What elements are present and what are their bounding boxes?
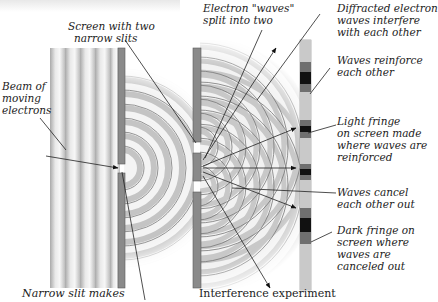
fringe-light [300,40,311,62]
fringe-dark [300,169,311,175]
fringe-light [300,244,311,290]
plane-waves [50,48,120,288]
fringe-light [300,138,311,164]
label-dark-fringe: Dark fringe on screen where waves are ca… [337,224,415,272]
fringe-dark [300,126,311,132]
label-electron-waves-split: Electron "waves" split into two [203,2,294,26]
label-diffracted-waves-interfere: Diffracted electron waves interfere with… [337,2,438,38]
fringe-light [300,180,311,208]
detector-screen [300,40,311,290]
fringe-mid [300,164,311,169]
caption-narrow-slit: Narrow slit makes [22,287,125,300]
fringe-mid [300,208,311,218]
label-beam-of-electrons: Beam of moving electrons [2,80,51,116]
label-waves-reinforce: Waves reinforce each other [337,54,423,78]
fringe-mid [300,84,311,92]
fringe-mid [300,175,311,180]
caption-interference-experiment: Interference experiment [199,287,336,300]
fringe-light [300,92,311,120]
double-slit-barrier [193,48,201,288]
fringe-mid [300,232,311,244]
label-light-fringe: Light fringe on screen made where waves … [337,115,427,163]
fringe-mid [300,120,311,126]
fringe-dark [300,218,311,232]
fringe-dark [300,72,311,84]
label-screen-with-two-slits: Screen with two narrow slits [68,20,155,44]
label-waves-cancel: Waves cancel each other out [337,186,415,210]
fringe-mid [300,62,311,72]
